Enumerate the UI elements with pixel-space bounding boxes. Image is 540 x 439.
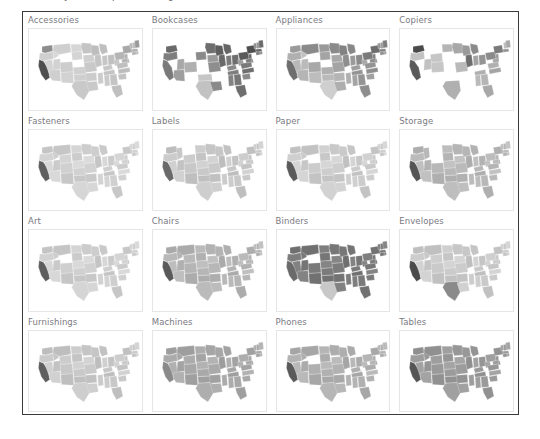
map-panel[interactable]: Accessories (23, 12, 147, 113)
map-panel[interactable]: Storage (394, 113, 518, 214)
state-mo (331, 363, 344, 374)
choropleth-map[interactable] (152, 129, 267, 212)
state-sd (72, 52, 83, 61)
state-ar (457, 274, 469, 283)
state-il (95, 255, 102, 268)
state-ms (345, 274, 351, 286)
map-panel[interactable]: Paper (271, 113, 395, 214)
state-mi (347, 144, 356, 155)
state-nm (432, 273, 445, 285)
state-nm (61, 273, 74, 285)
state-mi (470, 144, 479, 155)
state-ms (98, 73, 104, 85)
choropleth-map[interactable] (399, 229, 514, 312)
state-mn (205, 143, 217, 154)
map-panel[interactable]: Labels (147, 113, 271, 214)
map-panel[interactable]: Chairs (147, 213, 271, 314)
choropleth-map[interactable] (399, 330, 514, 413)
map-panel[interactable]: Envelopes (394, 213, 518, 314)
map-panel[interactable]: Machines (147, 314, 271, 415)
state-ms (98, 374, 104, 386)
state-wy (59, 354, 71, 363)
state-ri (383, 51, 386, 54)
state-in (349, 357, 355, 368)
state-wi (339, 45, 348, 56)
state-oh (355, 54, 362, 65)
choropleth-map[interactable] (152, 330, 267, 413)
panel-label: Machines (152, 317, 267, 329)
state-ms (98, 173, 104, 185)
state-ga (481, 275, 489, 287)
state-ri (136, 152, 139, 155)
state-ca (162, 59, 174, 80)
state-fl (111, 185, 123, 198)
choropleth-map[interactable] (28, 28, 143, 111)
state-mi (99, 144, 108, 155)
state-mo (208, 363, 221, 374)
choropleth-map[interactable] (399, 28, 514, 111)
state-ri (260, 252, 263, 255)
state-nd (195, 245, 206, 253)
map-panel[interactable]: Bookcases (147, 12, 271, 113)
state-az (173, 70, 185, 82)
choropleth-map[interactable] (399, 129, 514, 212)
state-ks (197, 368, 210, 376)
state-nm (185, 172, 198, 184)
state-wy (59, 53, 71, 62)
map-panel[interactable]: Fasteners (23, 113, 147, 214)
state-ga (481, 375, 489, 387)
state-wy (59, 153, 71, 162)
choropleth-map[interactable] (276, 229, 391, 312)
state-mn (81, 143, 93, 154)
choropleth-map[interactable] (28, 229, 143, 312)
state-in (102, 256, 108, 267)
state-mi (470, 44, 479, 55)
state-in (102, 156, 108, 167)
state-co (60, 263, 73, 274)
state-co (308, 363, 321, 374)
state-il (95, 54, 102, 67)
choropleth-map[interactable] (28, 330, 143, 413)
state-il (95, 155, 102, 168)
map-panel[interactable]: Binders (271, 213, 395, 314)
map-panel[interactable]: Copiers (394, 12, 518, 113)
state-mn (81, 344, 93, 355)
map-panel[interactable]: Appliances (271, 12, 395, 113)
state-ar (209, 274, 221, 283)
state-nm (61, 373, 74, 385)
title-fragment: y (64, 0, 69, 1)
state-fl (359, 85, 371, 98)
state-nm (432, 72, 445, 84)
choropleth-map[interactable] (276, 28, 391, 111)
map-panel[interactable]: Phones (271, 314, 395, 415)
state-oh (108, 155, 115, 166)
choropleth-map[interactable] (152, 229, 267, 312)
state-ri (260, 152, 263, 155)
state-wy (431, 254, 443, 263)
panel-label: Envelopes (399, 216, 514, 228)
state-sc (118, 73, 127, 80)
choropleth-map[interactable] (276, 330, 391, 413)
choropleth-map[interactable] (276, 129, 391, 212)
choropleth-map[interactable] (152, 28, 267, 111)
state-ga (110, 375, 118, 387)
state-co (184, 162, 197, 173)
state-ne (444, 160, 456, 168)
state-az (297, 70, 309, 82)
map-panel[interactable]: Art (23, 213, 147, 314)
state-ne (320, 160, 332, 168)
state-nd (195, 145, 206, 153)
state-nm (61, 172, 74, 184)
state-me (382, 140, 387, 148)
state-ne (72, 260, 84, 268)
state-ar (85, 173, 97, 182)
panel-label: Accessories (28, 15, 143, 27)
map-panel[interactable]: Tables (394, 314, 518, 415)
state-az (173, 271, 185, 283)
map-panel[interactable]: Furnishings (23, 314, 147, 415)
state-nd (442, 44, 453, 52)
choropleth-map[interactable] (28, 129, 143, 212)
state-mo (84, 263, 97, 274)
state-sd (443, 253, 454, 262)
state-il (95, 356, 102, 369)
